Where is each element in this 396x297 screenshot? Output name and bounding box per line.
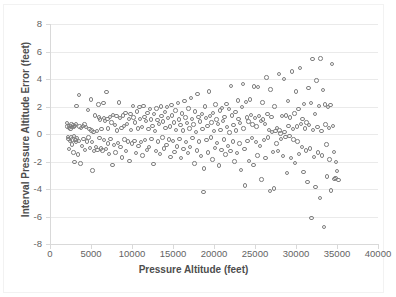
data-point xyxy=(209,135,213,139)
data-point xyxy=(331,124,335,128)
data-point xyxy=(184,140,188,144)
data-point xyxy=(120,155,124,159)
data-point xyxy=(272,186,276,190)
data-point xyxy=(159,104,163,108)
y-axis-title: Interval Pressure Altitude Error (feet) xyxy=(20,15,31,245)
data-point xyxy=(233,110,237,114)
data-point xyxy=(231,139,235,143)
data-point xyxy=(229,84,233,88)
gridline-y xyxy=(50,52,378,53)
data-point xyxy=(318,56,322,60)
data-point xyxy=(183,115,187,119)
data-point xyxy=(324,142,328,146)
data-point xyxy=(181,147,185,151)
data-point xyxy=(254,140,258,144)
data-point xyxy=(104,90,108,94)
data-point xyxy=(170,113,174,117)
data-point xyxy=(199,154,203,158)
data-point xyxy=(242,147,246,151)
data-point xyxy=(294,89,298,93)
data-point xyxy=(171,139,175,143)
data-point xyxy=(181,128,185,132)
data-point xyxy=(124,149,128,153)
data-point xyxy=(90,168,94,172)
data-point xyxy=(190,136,194,140)
data-point xyxy=(276,149,280,153)
data-point xyxy=(332,150,336,154)
data-point xyxy=(149,137,153,141)
data-point xyxy=(96,102,100,106)
data-point xyxy=(192,161,196,165)
data-point xyxy=(289,156,293,160)
data-point xyxy=(319,129,323,133)
data-point xyxy=(190,117,194,121)
data-point xyxy=(317,104,321,108)
plot-area xyxy=(50,24,378,244)
data-point xyxy=(286,99,290,103)
data-point xyxy=(299,122,303,126)
data-point xyxy=(281,154,285,158)
data-point xyxy=(282,130,286,134)
data-point xyxy=(274,141,278,145)
data-point xyxy=(209,120,213,124)
data-point xyxy=(231,123,235,127)
y-tick-mark xyxy=(46,24,50,25)
data-point xyxy=(256,85,260,89)
data-point xyxy=(186,106,190,110)
data-point xyxy=(213,146,217,150)
data-point xyxy=(188,145,192,149)
data-point xyxy=(152,112,156,116)
data-point xyxy=(76,152,80,156)
data-point xyxy=(327,157,331,161)
data-point xyxy=(221,119,225,123)
data-point xyxy=(290,69,294,73)
data-point xyxy=(195,148,199,152)
data-point xyxy=(113,123,117,127)
data-point xyxy=(187,126,191,130)
data-point xyxy=(203,104,207,108)
data-point xyxy=(220,106,224,110)
data-point xyxy=(206,150,210,154)
data-point xyxy=(118,145,122,149)
data-point xyxy=(219,148,223,152)
data-point xyxy=(241,82,245,86)
data-point xyxy=(178,123,182,127)
data-point xyxy=(144,119,148,123)
y-tick-mark xyxy=(46,189,50,190)
data-point xyxy=(173,108,177,112)
data-point xyxy=(89,97,93,101)
data-point xyxy=(202,166,206,170)
data-point xyxy=(260,100,264,104)
data-point xyxy=(222,137,226,141)
data-point xyxy=(250,136,254,140)
data-point xyxy=(310,57,314,61)
data-point xyxy=(236,98,240,102)
data-point xyxy=(107,152,111,156)
data-point xyxy=(227,107,231,111)
data-point xyxy=(179,156,183,160)
data-point xyxy=(86,108,90,112)
data-point xyxy=(161,119,165,123)
data-point xyxy=(224,102,228,106)
gridline-y xyxy=(50,162,378,163)
data-point xyxy=(268,87,272,91)
data-point xyxy=(175,144,179,148)
y-tick-mark xyxy=(46,107,50,108)
data-point xyxy=(148,107,152,111)
data-point xyxy=(298,66,302,70)
data-point xyxy=(320,153,324,157)
data-point xyxy=(306,86,310,90)
y-tick-mark xyxy=(46,134,50,135)
data-point xyxy=(297,152,301,156)
data-point xyxy=(228,149,232,153)
data-point xyxy=(254,124,258,128)
data-point xyxy=(238,121,242,125)
data-point xyxy=(147,145,151,149)
data-point xyxy=(143,138,147,142)
data-point xyxy=(182,99,186,103)
data-point xyxy=(322,225,326,229)
data-point xyxy=(272,104,276,108)
data-point xyxy=(239,168,243,172)
data-point xyxy=(237,141,241,145)
data-point xyxy=(215,141,219,145)
